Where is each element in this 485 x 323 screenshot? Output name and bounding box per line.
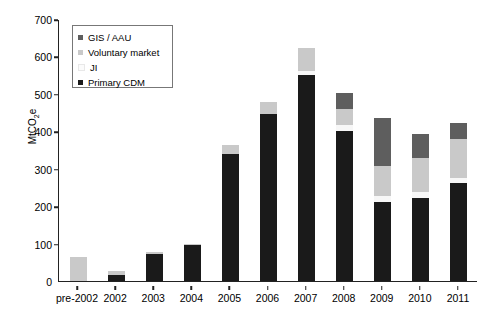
x-axis-tick-label: 2011 — [447, 292, 470, 304]
legend-label-voluntary-market: Voluntary market — [88, 47, 159, 58]
x-axis-tick-mark — [76, 286, 78, 290]
bar-segment — [374, 166, 391, 196]
bar-segment — [450, 183, 467, 281]
chart-legend: GIS / AAU Voluntary market JI Primary CD… — [72, 25, 173, 88]
x-axis-tick-mark — [419, 286, 421, 290]
bar-segment — [108, 271, 125, 275]
x-axis-tick-label: 2005 — [218, 292, 241, 304]
bar-2002 — [108, 271, 125, 281]
bar-segment — [298, 75, 315, 281]
legend-label-ji: JI — [90, 62, 97, 73]
bar-segment — [222, 154, 239, 281]
y-axis-title-sub: 2 — [33, 114, 40, 118]
y-axis-tick-label: 600 — [12, 51, 52, 63]
y-axis-tick-label: 500 — [12, 89, 52, 101]
bar-segment — [450, 139, 467, 178]
x-axis-tick-mark — [191, 286, 193, 290]
bar-2011 — [450, 123, 467, 281]
bar-segment — [336, 125, 353, 130]
bar-2010 — [412, 134, 429, 281]
bar-segment — [222, 145, 239, 154]
bar-segment — [412, 134, 429, 158]
x-axis-tick-mark — [457, 286, 459, 290]
bar-segment — [260, 102, 277, 114]
x-axis-tick-label: 2009 — [370, 292, 393, 304]
bar-segment — [412, 158, 429, 192]
legend-swatch-ji-icon — [78, 64, 85, 71]
legend-label-gis-aau: GIS / AAU — [88, 32, 131, 43]
bar-2008 — [336, 93, 353, 281]
y-axis-tick-label: 0 — [12, 276, 52, 288]
x-axis-tick-label: 2010 — [408, 292, 431, 304]
legend-swatch-voluntary-market-icon — [78, 50, 83, 55]
x-axis-tick-mark — [305, 286, 307, 290]
x-axis-tick-mark — [267, 286, 269, 290]
bar-segment — [298, 48, 315, 70]
bar-segment — [108, 275, 125, 281]
bar-segment — [374, 202, 391, 281]
x-axis-tick-label: 2002 — [103, 292, 126, 304]
legend-item-voluntary-market: Voluntary market — [78, 45, 167, 60]
bar-segment — [336, 93, 353, 109]
legend-item-gis-aau: GIS / AAU — [78, 30, 167, 45]
bar-segment — [260, 114, 277, 281]
x-axis-tick-mark — [343, 286, 345, 290]
x-axis-tick-label: 2004 — [180, 292, 203, 304]
bar-segment — [412, 198, 429, 281]
bar-segment — [184, 244, 201, 245]
bar-segment — [374, 196, 391, 202]
bar-segment — [146, 252, 163, 255]
x-axis-labels: pre-200220022003200420052006200720082009… — [58, 286, 477, 306]
legend-item-primary-cdm: Primary CDM — [78, 75, 167, 90]
x-axis-tick-label: 2007 — [294, 292, 317, 304]
legend-item-ji: JI — [78, 60, 167, 75]
bar-pre-2002 — [70, 257, 87, 281]
bar-2004 — [184, 244, 201, 281]
legend-label-primary-cdm: Primary CDM — [88, 77, 145, 88]
y-axis-tick-label: 300 — [12, 164, 52, 176]
x-axis-tick-mark — [152, 286, 154, 290]
bar-2006 — [260, 102, 277, 281]
y-axis-tick-label: 100 — [12, 239, 52, 251]
x-axis-tick-mark — [229, 286, 231, 290]
bar-2007 — [298, 48, 315, 281]
y-axis-title-suffix: e — [27, 109, 38, 115]
y-axis-tick-label: 200 — [12, 201, 52, 213]
bar-segment — [412, 192, 429, 198]
legend-swatch-gis-aau-icon — [78, 35, 83, 40]
x-axis-tick-label: 2006 — [256, 292, 279, 304]
bar-segment — [336, 109, 353, 125]
chart-container: MtCO2e 0100200300400500600700 pre-200220… — [0, 0, 485, 323]
bar-segment — [450, 178, 467, 183]
x-axis-tick-mark — [114, 286, 116, 290]
bar-segment — [298, 71, 315, 75]
bar-2003 — [146, 252, 163, 281]
y-axis-tick-label: 400 — [12, 126, 52, 138]
bar-segment — [336, 131, 353, 281]
bar-segment — [374, 118, 391, 167]
legend-swatch-primary-cdm-icon — [78, 80, 83, 85]
x-axis-tick-label: pre-2002 — [56, 292, 98, 304]
bar-segment — [450, 123, 467, 139]
x-axis-tick-mark — [381, 286, 383, 290]
bar-2005 — [222, 145, 239, 281]
x-axis-tick-label: 2003 — [142, 292, 165, 304]
bar-segment — [146, 254, 163, 281]
bar-segment — [70, 257, 87, 281]
bar-2009 — [374, 118, 391, 281]
y-axis-tick-label: 700 — [12, 14, 52, 26]
bar-segment — [184, 245, 201, 281]
x-axis-tick-label: 2008 — [332, 292, 355, 304]
